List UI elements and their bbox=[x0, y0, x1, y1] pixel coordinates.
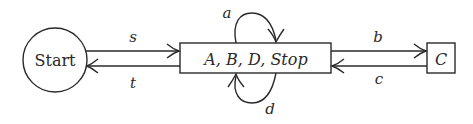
c-label: C bbox=[435, 50, 447, 69]
edge-d-label: d bbox=[265, 100, 275, 118]
edge-a-loop bbox=[235, 13, 276, 43]
edge-b-label: b bbox=[373, 28, 383, 46]
main-label: A, B, D, Stop bbox=[202, 50, 307, 69]
edge-s-label: s bbox=[129, 28, 137, 46]
arrowhead-d bbox=[228, 74, 244, 87]
edge-d-loop bbox=[235, 73, 276, 103]
arrowhead-a bbox=[268, 29, 284, 42]
start-label: Start bbox=[34, 51, 76, 70]
state-diagram: Start A, B, D, Stop C s t b c a d bbox=[0, 0, 473, 124]
edge-t-label: t bbox=[130, 74, 137, 92]
edge-c-label: c bbox=[375, 70, 384, 88]
edge-a-label: a bbox=[223, 4, 232, 22]
